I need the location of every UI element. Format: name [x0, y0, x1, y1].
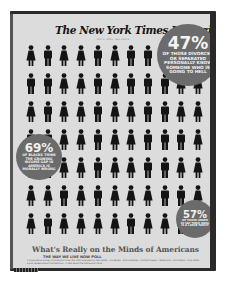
female-figure-icon — [126, 101, 136, 123]
male-figure-icon — [126, 45, 136, 67]
male-figure-icon — [143, 157, 153, 179]
male-figure-icon — [160, 157, 170, 179]
male-figure-icon — [93, 129, 103, 151]
stat-caption: of those under 30 say their ideal is a l… — [180, 220, 210, 228]
female-figure-icon — [176, 157, 186, 179]
stat-caption: of those divorced or separated personall… — [162, 52, 210, 75]
female-figure-icon — [110, 101, 120, 123]
male-figure-icon — [93, 101, 103, 123]
stat-badge-69: 69% of blacks think the growing income g… — [16, 134, 62, 180]
male-figure-icon — [59, 185, 69, 207]
barcode-strip — [14, 268, 38, 272]
female-figure-icon — [76, 73, 86, 95]
male-figure-icon — [143, 73, 153, 95]
female-figure-icon — [110, 213, 120, 235]
cover-headline: What's Really on the Minds of Americans — [23, 245, 208, 254]
female-figure-icon — [193, 157, 203, 179]
female-figure-icon — [59, 129, 69, 151]
male-figure-icon — [43, 45, 53, 67]
male-figure-icon — [26, 73, 36, 95]
female-figure-icon — [143, 213, 153, 235]
male-figure-icon — [143, 45, 153, 67]
female-figure-icon — [110, 129, 120, 151]
female-figure-icon — [110, 185, 120, 207]
stat-badge-47: 47% of those divorced or separated perso… — [157, 24, 210, 86]
stat-badge-57: 57% of those under 30 say their ideal is… — [176, 200, 210, 238]
female-figure-icon — [176, 101, 186, 123]
male-figure-icon — [93, 185, 103, 207]
female-figure-icon — [43, 185, 53, 207]
female-figure-icon — [59, 45, 69, 67]
female-figure-icon — [26, 101, 36, 123]
male-figure-icon — [143, 129, 153, 151]
female-figure-icon — [193, 101, 203, 123]
female-figure-icon — [110, 45, 120, 67]
male-figure-icon — [176, 129, 186, 151]
cover-byline: A provocative survey of America's inner … — [27, 260, 199, 266]
female-figure-icon — [76, 45, 86, 67]
female-figure-icon — [59, 73, 69, 95]
female-figure-icon — [76, 213, 86, 235]
male-figure-icon — [93, 45, 103, 67]
female-figure-icon — [126, 157, 136, 179]
magazine-cover: The New York Times Magazine MAY 1, 2005 … — [13, 14, 210, 268]
male-figure-icon — [126, 213, 136, 235]
female-figure-icon — [126, 185, 136, 207]
female-figure-icon — [110, 73, 120, 95]
male-figure-icon — [43, 213, 53, 235]
male-figure-icon — [160, 185, 170, 207]
female-figure-icon — [59, 213, 69, 235]
male-figure-icon — [43, 101, 53, 123]
female-figure-icon — [26, 185, 36, 207]
female-figure-icon — [76, 101, 86, 123]
female-figure-icon — [76, 185, 86, 207]
male-figure-icon — [93, 73, 103, 95]
female-figure-icon — [110, 157, 120, 179]
male-figure-icon — [93, 157, 103, 179]
female-figure-icon — [26, 45, 36, 67]
male-figure-icon — [143, 101, 153, 123]
female-figure-icon — [126, 129, 136, 151]
male-figure-icon — [160, 101, 170, 123]
male-figure-icon — [160, 129, 170, 151]
stat-caption: of blacks think the growing income gap i… — [20, 154, 58, 171]
female-figure-icon — [93, 213, 103, 235]
female-figure-icon — [160, 213, 170, 235]
stat-percent: 47% — [168, 35, 209, 52]
female-figure-icon — [143, 185, 153, 207]
female-figure-icon — [76, 157, 86, 179]
female-figure-icon — [76, 129, 86, 151]
male-figure-icon — [126, 73, 136, 95]
male-figure-icon — [43, 73, 53, 95]
female-figure-icon — [26, 213, 36, 235]
female-figure-icon — [193, 129, 203, 151]
female-figure-icon — [59, 101, 69, 123]
